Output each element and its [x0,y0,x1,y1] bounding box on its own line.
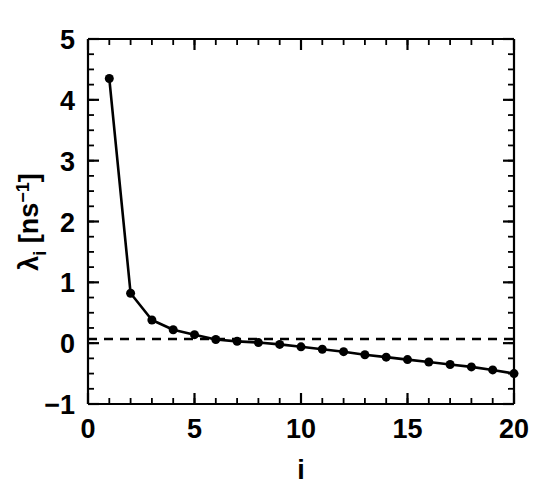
data-point [382,353,391,362]
y-axis-title-symbol: λ [14,256,44,271]
data-point [169,325,178,334]
x-tick-label: 10 [286,414,316,444]
x-tick-label: 20 [499,414,529,444]
chart-plot-area: 05101520 −1012345 i λi [ns−1] [0,0,554,490]
y-tick-label: 4 [60,86,75,116]
y-tick-label: 2 [60,208,75,238]
data-point [233,337,242,346]
data-point [424,358,433,367]
y-tick-label: −1 [44,390,75,420]
data-point [339,347,348,356]
data-point [446,360,455,369]
data-point [318,345,327,354]
data-point [105,74,114,83]
data-point [360,350,369,359]
y-tick-label: 5 [60,25,75,55]
y-tick-label: 1 [60,268,75,298]
data-point [190,330,199,339]
data-point [488,365,497,374]
y-tick-label: 0 [60,329,75,359]
data-point [403,355,412,364]
y-axis-title-exponent: −1 [13,182,33,203]
y-axis-title-unit-open: [ns [14,203,44,251]
y-tick-label: 3 [60,147,75,177]
y-axis-title-unit-close: ] [14,173,44,182]
x-tick-label: 0 [80,414,95,444]
data-point [467,362,476,371]
data-point [254,338,263,347]
data-point [147,316,156,325]
x-tick-label: 5 [187,414,202,444]
chart-figure: 05101520 −1012345 i λi [ns−1] [0,0,554,490]
data-point [126,289,135,298]
data-point [510,369,519,378]
data-point [297,342,306,351]
x-axis-title: i [297,455,305,485]
data-point [275,340,284,349]
data-point [211,335,220,344]
x-tick-label: 15 [392,414,422,444]
